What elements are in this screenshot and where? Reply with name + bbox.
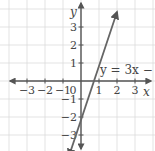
x-tick-label: −2 [37, 84, 53, 97]
equation-label: y = 3x − 2 [99, 63, 155, 77]
y-tick-label: 3 [70, 21, 77, 34]
y-tick-label: 1 [70, 57, 77, 70]
y-tick-label: −1 [61, 93, 77, 106]
x-axis-label: x [143, 85, 150, 99]
x-tick-label: −3 [19, 84, 35, 97]
x-tick-label: 1 [96, 84, 103, 97]
y-tick-label: −2 [61, 111, 77, 124]
y-tick-label: 2 [70, 39, 77, 52]
y-axis-label: y [69, 5, 77, 19]
x-tick-label: 3 [132, 84, 139, 97]
coordinate-plane: −3−2−10123−3−2−1123 x y y = 3x − 2 [0, 0, 155, 151]
x-tick-label: 2 [114, 84, 121, 97]
